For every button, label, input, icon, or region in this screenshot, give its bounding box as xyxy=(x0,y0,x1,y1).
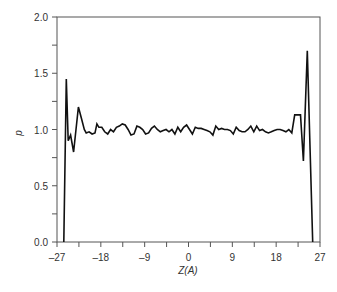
line-chart: 0.00.51.01.52.0 –27–18–9091827 p Z(A) xyxy=(0,0,337,292)
y-tick-label: 0.5 xyxy=(34,181,48,192)
density-line xyxy=(64,51,313,242)
y-tick-label: 2.0 xyxy=(34,12,48,23)
y-tick-label: 0.0 xyxy=(34,237,48,248)
x-axis-title: Z(A) xyxy=(177,265,197,276)
y-axis: 0.00.51.01.52.0 xyxy=(34,12,57,248)
x-tick-label: 27 xyxy=(314,252,326,263)
y-axis-title: p xyxy=(13,130,24,137)
x-tick-label: –18 xyxy=(92,252,109,263)
x-tick-label: –9 xyxy=(139,252,151,263)
y-tick-label: 1.5 xyxy=(34,68,48,79)
y-tick-label: 1.0 xyxy=(34,125,48,136)
x-tick-label: 0 xyxy=(186,252,192,263)
x-tick-label: 18 xyxy=(271,252,283,263)
x-tick-label: –27 xyxy=(49,252,66,263)
x-axis: –27–18–9091827 xyxy=(49,242,326,263)
x-tick-label: 9 xyxy=(230,252,236,263)
